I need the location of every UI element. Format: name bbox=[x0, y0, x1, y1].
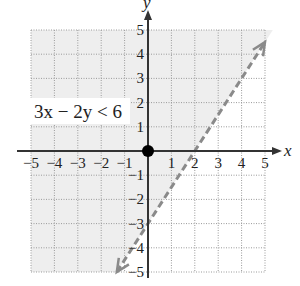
y-tick-label: 4 bbox=[137, 46, 145, 62]
x-tick-label: 4 bbox=[238, 155, 246, 171]
x-tick-label: 5 bbox=[261, 155, 269, 171]
x-tick-label: 1 bbox=[168, 155, 176, 171]
y-tick-label: −3 bbox=[128, 216, 144, 232]
x-tick-label: −2 bbox=[93, 155, 109, 171]
test-point-dot bbox=[142, 145, 154, 157]
x-tick-label: −3 bbox=[70, 155, 86, 171]
y-tick-label: −5 bbox=[128, 264, 144, 280]
y-tick-label: 1 bbox=[137, 119, 145, 135]
y-tick-label: 3 bbox=[137, 70, 145, 86]
x-tick-label: 3 bbox=[214, 155, 222, 171]
inequality-graph: xy −5−4−3−2−112345−5−4−3−2−112345 3x − 2… bbox=[0, 0, 300, 286]
y-tick-label: −2 bbox=[128, 191, 144, 207]
y-tick-label: 2 bbox=[137, 95, 145, 111]
x-tick-label: 2 bbox=[191, 155, 199, 171]
x-axis-arrow-icon bbox=[272, 147, 282, 155]
x-tick-label: −5 bbox=[23, 155, 39, 171]
x-tick-label: −4 bbox=[46, 155, 62, 171]
y-tick-label: −1 bbox=[128, 167, 144, 183]
inequality-label: 3x − 2y < 6 bbox=[30, 98, 130, 124]
y-axis-label: y bbox=[141, 0, 151, 12]
y-tick-label: 5 bbox=[137, 22, 145, 38]
y-tick-label: −4 bbox=[128, 240, 144, 256]
inequality-label-text: 3x − 2y < 6 bbox=[34, 101, 122, 122]
x-axis-label: x bbox=[283, 141, 292, 160]
origin-point bbox=[142, 145, 154, 157]
